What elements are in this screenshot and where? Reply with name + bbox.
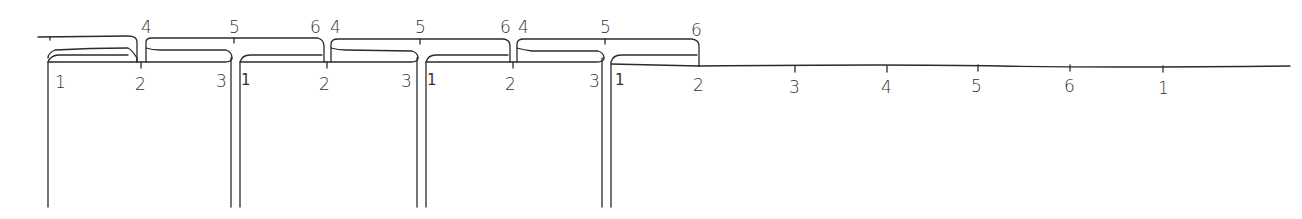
axis-labels: 3 4 5 6 1 bbox=[789, 76, 1169, 98]
upper-label-5c: 5 bbox=[600, 17, 611, 37]
upper-label-6b: 6 bbox=[500, 17, 511, 37]
lower-label-1a: 1 bbox=[55, 72, 66, 92]
axis-label-6: 6 bbox=[1064, 76, 1075, 96]
axis-label-4: 4 bbox=[881, 77, 892, 97]
upper-rail-labels: 4 5 6 4 5 6 4 5 6 bbox=[141, 17, 702, 40]
lower-label-3b: 3 bbox=[401, 71, 412, 91]
upper-label-4b: 4 bbox=[330, 17, 341, 37]
axis-label-3: 3 bbox=[789, 77, 800, 97]
lower-label-2a: 2 bbox=[135, 74, 146, 94]
lower-label-1b: 1 bbox=[241, 71, 251, 89]
upper-label-5a: 5 bbox=[229, 17, 240, 37]
repeat-pattern-diagram: 4 5 6 4 5 6 4 5 6 1 2 3 1 2 3 1 2 3 1 2 … bbox=[0, 0, 1302, 219]
upper-label-4c: 4 bbox=[518, 17, 529, 37]
lower-label-3a: 3 bbox=[216, 71, 227, 91]
upper-label-4a: 4 bbox=[141, 17, 152, 37]
axis-label-1: 1 bbox=[1158, 78, 1169, 98]
lower-label-3c: 3 bbox=[589, 71, 600, 91]
axis-label-5: 5 bbox=[971, 76, 982, 96]
upper-label-6c: 6 bbox=[691, 20, 702, 40]
lower-label-1d: 1 bbox=[615, 71, 625, 89]
upper-label-5b: 5 bbox=[415, 17, 426, 37]
lower-rail-labels: 1 2 3 1 2 3 1 2 3 1 2 bbox=[55, 71, 704, 95]
number-axis bbox=[699, 65, 1290, 72]
lower-label-2c: 2 bbox=[505, 74, 516, 94]
lower-label-1c: 1 bbox=[427, 71, 437, 89]
upper-label-6a: 6 bbox=[310, 17, 321, 37]
lower-label-2d: 2 bbox=[693, 75, 704, 95]
lower-label-2b: 2 bbox=[319, 74, 330, 94]
